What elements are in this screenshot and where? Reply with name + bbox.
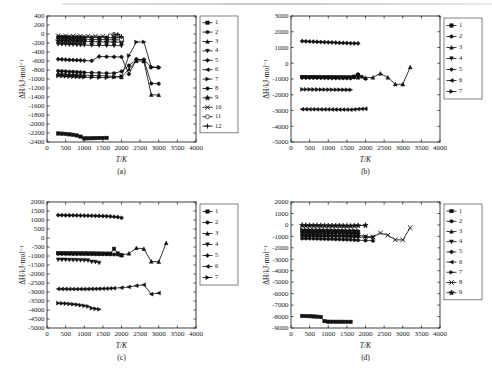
- y-tick-label: -1200: [28, 84, 45, 92]
- y-tick-label: 2000: [275, 28, 290, 36]
- legend-label: 1: [459, 21, 462, 28]
- y-tick-label: -1400: [28, 93, 45, 101]
- y-tick-label: -4000: [28, 306, 45, 314]
- x-tick-label: 500: [60, 330, 71, 338]
- y-tick-label: -8000: [272, 313, 289, 321]
- subplot-c: 0500100015002000250030003500400020001500…: [0, 190, 244, 377]
- y-tick-label: 200: [34, 21, 45, 29]
- y-tick-label: -7000: [272, 301, 289, 309]
- series-5: [300, 39, 360, 45]
- panel-label: (c): [117, 353, 126, 362]
- x-tick-label: 0: [289, 330, 293, 338]
- plot-b: 0500100015002000250030003500400030002000…: [244, 2, 488, 190]
- plot-d: 0500100015002000250030003500400020001000…: [244, 190, 488, 377]
- x-tick-label: 1000: [321, 144, 336, 152]
- y-axis-label: ΔH/kJ·mol⁻¹: [262, 245, 271, 284]
- y-tick-label: -2000: [272, 244, 289, 252]
- y-tick-label: -2500: [28, 279, 45, 287]
- x-tick-label: 1000: [77, 144, 92, 152]
- y-tick-label: -1600: [28, 102, 45, 110]
- x-tick-label: 4000: [189, 330, 204, 338]
- y-tick-label: -3500: [28, 297, 45, 305]
- series-layer: [56, 32, 161, 140]
- y-tick-label: 2000: [275, 198, 290, 206]
- legend-label: 1: [459, 207, 462, 214]
- x-tick-label: 500: [304, 330, 315, 338]
- y-tick-label: 2000: [31, 198, 46, 206]
- legend: 123456789101112: [200, 16, 238, 133]
- y-tick-label: 400: [34, 12, 45, 20]
- legend-label: 2: [215, 28, 218, 35]
- y-tick-label: -600: [32, 57, 45, 65]
- x-tick-label: 3500: [170, 330, 185, 338]
- x-tick-label: 2000: [359, 144, 374, 152]
- y-tick-label: -5000: [28, 324, 45, 332]
- x-axis-label: T/K: [360, 341, 372, 350]
- y-tick-label: -2400: [28, 138, 45, 146]
- x-tick-label: 1500: [340, 330, 355, 338]
- y-tick-label: -1000: [28, 75, 45, 83]
- y-tick-label: -2000: [272, 91, 289, 99]
- x-tick-label: 1000: [321, 330, 336, 338]
- series-1: [56, 132, 108, 140]
- y-axis-label: ΔH/kJ·mol⁻¹: [18, 245, 27, 284]
- y-tick-label: -1000: [272, 75, 289, 83]
- series-layer: [300, 223, 413, 324]
- x-tick-label: 1500: [96, 144, 111, 152]
- y-tick-label: -2200: [28, 129, 45, 137]
- y-tick-label: -5000: [272, 278, 289, 286]
- y-tick-label: 1500: [31, 207, 46, 215]
- y-axis-label: ΔH/kJ·mol⁻¹: [262, 59, 271, 98]
- y-tick-label: -3000: [272, 256, 289, 264]
- x-tick-label: 3500: [414, 330, 429, 338]
- x-axis-label: T/K: [116, 341, 128, 350]
- series-6: [56, 283, 160, 296]
- panel-label: (d): [361, 353, 370, 362]
- series-6: [300, 107, 367, 112]
- y-tick-label: -2000: [28, 120, 45, 128]
- y-tick-label: -500: [32, 243, 45, 251]
- legend-label: 5: [215, 56, 218, 63]
- x-tick-label: 3000: [152, 144, 167, 152]
- x-tick-label: 3500: [414, 144, 429, 152]
- legend-label: 3: [215, 37, 218, 44]
- y-tick-label: 1000: [31, 216, 46, 224]
- legend: 1234567: [200, 204, 238, 285]
- legend: 1234567: [444, 18, 482, 99]
- y-tick-label: -4000: [272, 267, 289, 275]
- legend-label: 5: [459, 247, 462, 254]
- x-tick-label: 0: [45, 144, 49, 152]
- plot-c: 0500100015002000250030003500400020001500…: [0, 190, 244, 377]
- y-tick-label: 1000: [275, 210, 290, 218]
- y-tick-label: 0: [41, 30, 45, 38]
- x-tick-label: 2000: [115, 330, 130, 338]
- y-tick-label: -1000: [272, 233, 289, 241]
- x-tick-label: 0: [45, 330, 49, 338]
- y-tick-label: -3000: [272, 107, 289, 115]
- legend-label: 8: [215, 84, 218, 91]
- y-tick-label: -2000: [28, 270, 45, 278]
- legend-label: 9: [215, 93, 218, 100]
- y-tick-label: 0: [41, 234, 45, 242]
- legend-label: 2: [459, 32, 462, 39]
- legend-label: 10: [215, 103, 222, 110]
- legend-label: 2: [459, 217, 462, 224]
- x-tick-label: 3000: [396, 330, 411, 338]
- x-tick-label: 500: [304, 144, 315, 152]
- series-4: [56, 258, 101, 265]
- legend-label: 9: [459, 288, 462, 295]
- x-tick-label: 4000: [433, 144, 448, 152]
- y-tick-label: -9000: [272, 324, 289, 332]
- series-5: [56, 213, 124, 220]
- plot-frame: [291, 202, 440, 328]
- series-7: [300, 87, 352, 91]
- x-tick-label: 2500: [133, 144, 148, 152]
- series-layer: [300, 39, 412, 111]
- subplot-d: 0500100015002000250030003500400020001000…: [244, 190, 488, 377]
- legend-label: 1: [215, 207, 218, 214]
- y-tick-label: -200: [32, 39, 45, 47]
- x-tick-label: 500: [60, 144, 71, 152]
- x-tick-label: 3500: [170, 144, 185, 152]
- x-tick-label: 1500: [340, 144, 355, 152]
